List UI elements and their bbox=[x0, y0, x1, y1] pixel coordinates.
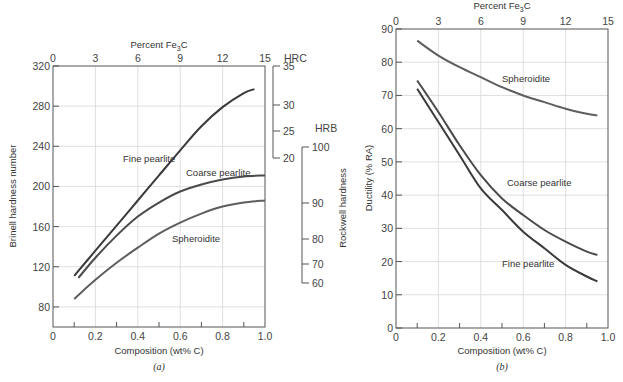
x-tick-label: 0.4 bbox=[130, 330, 145, 342]
x-tick-label: 1.0 bbox=[601, 331, 616, 343]
x-tick-label: 0.6 bbox=[516, 331, 531, 343]
x-tick-label: 0.8 bbox=[215, 330, 230, 342]
chart-a-grid bbox=[53, 66, 265, 327]
hrb-tick-label: 60 bbox=[312, 277, 324, 289]
curve-label: Fine pearlite bbox=[123, 153, 175, 164]
chart-a-top-axis-title: Percent Fe3C bbox=[130, 39, 187, 52]
top-tick-label: 0 bbox=[50, 52, 56, 64]
x-tick-label: 0.8 bbox=[558, 331, 573, 343]
y-tick-label: 90 bbox=[381, 23, 393, 35]
y-tick-label: 20 bbox=[381, 256, 393, 268]
chart-a-x-axis-title: Composition (wt% C) bbox=[114, 345, 203, 356]
figure: 00.20.40.60.81.0801201602002402803200369… bbox=[0, 0, 623, 382]
hrc-scale-label: HRC bbox=[284, 52, 307, 64]
x-tick-label: 0.2 bbox=[88, 330, 103, 342]
hrb-tick-label: 70 bbox=[312, 258, 324, 270]
curve-label: Coarse pearlite bbox=[186, 167, 250, 178]
top-tick-label: 3 bbox=[435, 15, 441, 27]
curve-label: Coarse pearlite bbox=[507, 177, 571, 188]
chart-b-top-axis-title: Percent Fe3C bbox=[473, 0, 530, 13]
hrb-scale-label: HRB bbox=[315, 122, 337, 134]
top-tick-label: 9 bbox=[520, 15, 526, 27]
x-tick-label: 1.0 bbox=[258, 330, 273, 342]
y-tick-label: 50 bbox=[381, 156, 393, 168]
chart-a-frame bbox=[53, 66, 265, 327]
top-tick-label: 0 bbox=[393, 15, 399, 27]
chart-b-ductility: 00.20.40.60.81.0010203040506070809003691… bbox=[363, 0, 615, 373]
chart-b-panel-label: (b) bbox=[496, 361, 508, 373]
y-tick-label: 0 bbox=[387, 322, 393, 334]
y-tick-label: 80 bbox=[38, 301, 50, 313]
top-tick-label: 15 bbox=[602, 15, 614, 27]
y-tick-label: 200 bbox=[32, 180, 50, 192]
y-tick-label: 70 bbox=[381, 89, 393, 101]
y-tick-label: 280 bbox=[32, 100, 50, 112]
chart-b-axes: 00.20.40.60.81.0010203040506070809003691… bbox=[381, 15, 615, 343]
y-tick-label: 10 bbox=[381, 289, 393, 301]
y-tick-label: 60 bbox=[381, 123, 393, 135]
x-tick-label: 0 bbox=[50, 330, 56, 342]
x-tick-label: 0.2 bbox=[431, 331, 446, 343]
chart-a-rockwell-axis-title: Rockwell hardness bbox=[337, 168, 348, 248]
y-tick-label: 120 bbox=[32, 261, 50, 273]
hrb-tick-label: 100 bbox=[312, 141, 330, 153]
y-tick-label: 80 bbox=[381, 56, 393, 68]
chart-a-curve-labels: Fine pearliteCoarse pearliteSpheroidite bbox=[123, 153, 250, 244]
chart-b-y-axis-title: Ductility (% RA) bbox=[363, 145, 374, 212]
top-tick-label: 9 bbox=[177, 52, 183, 64]
hrb-tick-label: 80 bbox=[312, 233, 324, 245]
curve-label: Spheroidite bbox=[172, 233, 220, 244]
chart-a-curves bbox=[74, 89, 265, 299]
chart-a-axes: 00.20.40.60.81.0801201602002402803200369… bbox=[32, 52, 329, 342]
top-tick-label: 12 bbox=[217, 52, 229, 64]
top-tick-label: 6 bbox=[478, 15, 484, 27]
curve-label: Spheroidite bbox=[502, 73, 550, 84]
hrc-tick-label: 30 bbox=[283, 99, 295, 111]
chart-b-x-axis-title: Composition (wt% C) bbox=[457, 345, 546, 356]
curve-coarse-pearlite bbox=[417, 80, 597, 254]
y-tick-label: 320 bbox=[32, 60, 50, 72]
top-tick-label: 3 bbox=[92, 52, 98, 64]
curve-label: Fine pearlite bbox=[502, 258, 554, 269]
hrc-tick-label: 25 bbox=[283, 125, 295, 137]
chart-a-panel-label: (a) bbox=[153, 361, 165, 373]
y-tick-label: 40 bbox=[381, 189, 393, 201]
hrc-tick-label: 20 bbox=[283, 152, 295, 164]
x-tick-label: 0.4 bbox=[473, 331, 488, 343]
hrb-tick-label: 90 bbox=[312, 197, 324, 209]
x-tick-label: 0.6 bbox=[173, 330, 188, 342]
chart-a-hardness: 00.20.40.60.81.0801201602002402803200369… bbox=[7, 39, 348, 373]
top-tick-label: 6 bbox=[135, 52, 141, 64]
chart-a-y-axis-title: Brinell hardness number bbox=[7, 145, 18, 248]
y-tick-label: 240 bbox=[32, 140, 50, 152]
x-tick-label: 0 bbox=[393, 331, 399, 343]
y-tick-label: 160 bbox=[32, 221, 50, 233]
top-tick-label: 15 bbox=[259, 52, 271, 64]
y-tick-label: 30 bbox=[381, 222, 393, 234]
curve-fine-pearlite bbox=[74, 89, 254, 276]
top-tick-label: 12 bbox=[560, 15, 572, 27]
